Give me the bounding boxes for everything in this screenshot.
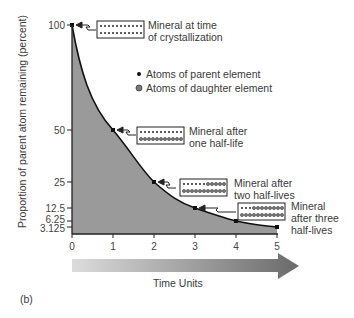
chart-svg: 100 50 25 12.5 6.25 3.125 0 1 2 3 4 5 (0, 0, 354, 318)
annotation-two-half-lives-line1: Mineral after (234, 177, 292, 189)
y-ticks (67, 25, 72, 227)
daughter-atom-icon (136, 85, 142, 91)
panel-label: (b) (20, 293, 33, 305)
legend-parent-label: Atoms of parent element (146, 68, 260, 80)
annotation-one-half-life-line1: Mineral after (189, 125, 247, 137)
y-tick-label: 100 (48, 20, 65, 31)
legend-daughter-label: Atoms of daughter element (146, 82, 272, 94)
y-tick-label: 50 (54, 125, 66, 136)
y-axis-label: Proportion of parent atom remaining (per… (16, 28, 28, 228)
mineral-box-crystallization (97, 21, 144, 38)
half-life-figure: 100 50 25 12.5 6.25 3.125 0 1 2 3 4 5 (0, 0, 354, 318)
x-tick-label: 3 (192, 241, 198, 252)
x-tick-label: 2 (151, 241, 157, 252)
x-tick-label: 5 (274, 241, 280, 252)
annotation-two-half-lives-line2: two half-lives (234, 189, 295, 201)
mineral-box-one-half-life (137, 127, 184, 144)
annotation-three-half-lives-line1: Mineral (291, 200, 325, 212)
annotation-crystallization-line2: of crystallization (148, 31, 223, 43)
annotation-one-half-life-line2: one half-life (189, 137, 243, 149)
x-tick-label: 4 (233, 241, 239, 252)
x-tick-label: 1 (110, 241, 116, 252)
y-tick-label: 25 (54, 177, 66, 188)
parent-atom-icon (137, 72, 141, 76)
annotation-crystallization-line1: Mineral at time (148, 19, 217, 31)
mineral-box-three-half-lives (238, 203, 285, 220)
mineral-box-two-half-lives (180, 179, 227, 196)
annotation-three-half-lives-line2: after three (291, 212, 339, 224)
x-tick-label: 0 (69, 241, 75, 252)
time-arrow-icon (72, 253, 299, 279)
y-tick-label: 12.5 (46, 203, 66, 214)
y-tick-label: 3.125 (40, 223, 65, 234)
x-axis-label: Time Units (153, 277, 203, 289)
annotation-three-half-lives-line3: half-lives (291, 224, 332, 236)
